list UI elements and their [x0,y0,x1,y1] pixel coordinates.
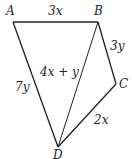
edge-label-bc: 3y [110,39,125,53]
vertex-label-d: D [52,148,63,159]
edge-label-ab: 3x [48,4,63,18]
quadrilateral-diagram: A B C D 3x 3y 2x 7y 4x + y [0,0,132,159]
vertex-label-b: B [93,4,103,18]
edge-label-ad: 7y [15,80,30,94]
edge-label-bd: 4x + y [39,65,79,79]
edge-label-cd: 2x [93,113,109,127]
vertex-label-c: C [119,77,128,91]
edge-bc [98,22,116,84]
diagonal-bd [58,22,98,147]
vertex-label-a: A [5,4,15,18]
